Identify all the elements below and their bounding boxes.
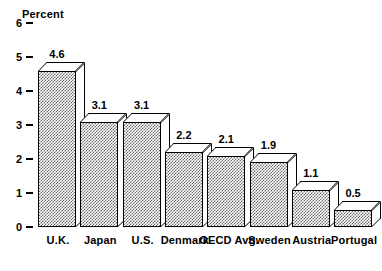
y-axis-tick-label: 5 [16,51,22,63]
y-axis-tick-label: 1 [16,187,22,199]
bar-denmark: 2.2 [165,152,203,227]
tick-mark-icon [26,22,33,24]
tick-mark-icon [26,124,33,126]
y-axis-tick-4: 4 [0,85,34,97]
bar-value-label: 2.2 [165,129,203,141]
bar-front-face [334,210,372,227]
x-axis-category-label: Portugal [326,234,382,246]
bar-front-face [207,156,245,227]
bar-portugal: 0.5 [334,210,372,227]
bar-top-face [123,113,170,122]
bar-u-k: 4.6 [38,71,76,227]
bar-front-face [292,190,330,227]
bar-value-label: 2.1 [207,133,245,145]
y-axis-tick-0: 0 [0,221,34,233]
y-axis-tick-label: 2 [16,153,22,165]
bar-front-face [123,122,161,227]
y-axis-tick-3: 3 [0,119,34,131]
tick-mark-icon [26,90,33,92]
bar-japan: 3.1 [80,122,118,227]
bar-austria: 1.1 [292,190,330,227]
y-axis-tick-2: 2 [0,153,34,165]
bar-value-label: 1.1 [292,167,330,179]
tick-mark-icon [26,158,33,160]
bar-value-label: 1.9 [250,139,288,151]
bar-front-face [250,162,288,227]
bar-value-label: 0.5 [334,187,372,199]
bar-front-face [80,122,118,227]
bar-value-label: 4.6 [38,48,76,60]
y-axis-tick-label: 3 [16,119,22,131]
y-axis-tick-label: 4 [16,85,22,97]
bar-value-label: 3.1 [80,99,118,111]
bar-oecd-avg: 2.1 [207,156,245,227]
bar-top-face [38,62,85,71]
bar-sweden: 1.9 [250,162,288,227]
bar-front-face [38,71,76,227]
y-axis-tick-6: 6 [0,17,34,29]
tick-mark-icon [26,56,33,58]
tick-mark-icon [26,192,33,194]
bar-front-face [165,152,203,227]
bar-u-s: 3.1 [123,122,161,227]
tick-mark-icon [26,226,33,228]
bar-top-face [292,181,339,190]
plot-area: 4.6U.K.3.1Japan3.1U.S.2.2Denmark2.1OECD … [34,0,375,271]
y-axis-tick-5: 5 [0,51,34,63]
y-axis-tick-label: 6 [16,17,22,29]
y-axis-tick-label: 0 [16,221,22,233]
y-axis-tick-1: 1 [0,187,34,199]
bar-value-label: 3.1 [123,99,161,111]
